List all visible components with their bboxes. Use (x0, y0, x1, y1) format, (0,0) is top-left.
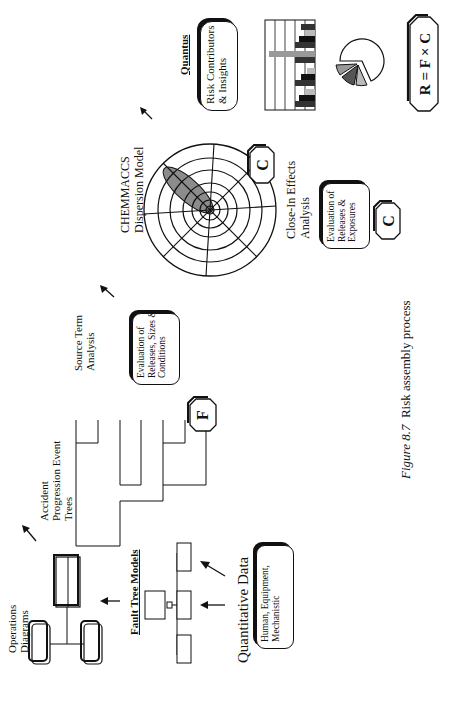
figure-number: Figure 8.7 (398, 425, 413, 479)
figure-title: Risk assembly process (398, 300, 413, 418)
risk-equation-badge: R = F × C (0, 0, 465, 701)
figure-caption: Figure 8.7 Risk assembly process (398, 300, 414, 479)
figure-page: Operations Diagrams Fault Tree Models (0, 0, 465, 701)
svg-text:R = F × C: R = F × C (417, 33, 433, 95)
